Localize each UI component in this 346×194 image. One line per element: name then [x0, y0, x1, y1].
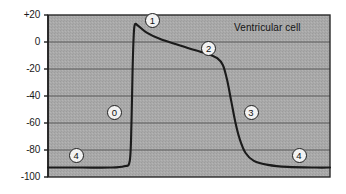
ventricular-cell-label: Ventricular cell [234, 22, 301, 33]
phase-marker-4-4: 4 [69, 148, 84, 163]
phase-marker-1-1: 1 [145, 13, 160, 28]
action-potential-figure: +20 0 -20 -40 -60 -80 -100 Ventricular c… [0, 0, 346, 194]
phase-marker-4-5: 4 [292, 148, 307, 163]
phase-marker-3-3: 3 [244, 105, 259, 120]
ytick-label-1: 0 [0, 37, 40, 47]
ytick-label-6: -100 [0, 172, 40, 182]
ytick-label-3: -40 [0, 91, 40, 101]
ytick-label-4: -60 [0, 118, 40, 128]
ytick-label-5: -80 [0, 145, 40, 155]
ytick-label-2: -20 [0, 64, 40, 74]
ytick-label-0: +20 [0, 10, 40, 20]
phase-marker-0-0: 0 [107, 105, 122, 120]
